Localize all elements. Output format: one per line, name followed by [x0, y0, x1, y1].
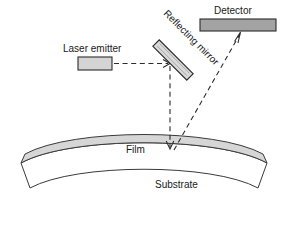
substrate-label: Substrate	[155, 179, 198, 190]
detector-label: Detector	[214, 5, 252, 16]
laser-film-curvature-diagram: Laser emitter Detector Reflecting mirror…	[0, 0, 288, 239]
laser-emitter-body[interactable]	[78, 57, 112, 70]
laser-emitter-label: Laser emitter	[63, 43, 122, 54]
film-label: Film	[126, 144, 145, 155]
figure-container: Laser emitter Detector Reflecting mirror…	[0, 0, 288, 239]
reflecting-mirror-body[interactable]	[153, 40, 193, 80]
detector-body[interactable]	[200, 19, 276, 31]
